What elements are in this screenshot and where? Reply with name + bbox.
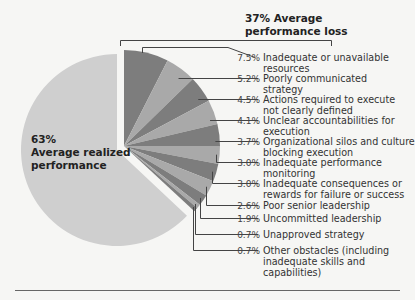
slice-label: Poorly communicated strategy bbox=[263, 73, 388, 95]
slice-pct: 3.0% bbox=[237, 158, 260, 169]
slice-label: Other obstacles (including inadequate sk… bbox=[263, 245, 391, 278]
realized-line2: performance bbox=[31, 159, 131, 172]
slice-pct: 7.5% bbox=[237, 53, 260, 64]
slice-pct: 4.1% bbox=[237, 116, 260, 127]
slice-pct: 5.2% bbox=[237, 74, 260, 85]
loss-title-line2: performance loss bbox=[245, 25, 348, 38]
slice-pct: 1.9% bbox=[237, 214, 260, 225]
slice-label: Unclear accountabilities for execution bbox=[263, 115, 413, 137]
slice-label: Uncommitted leadership bbox=[263, 213, 413, 224]
slice-label: Organizational silos and culture blockin… bbox=[263, 136, 415, 158]
loss-title: 37% Average performance loss bbox=[245, 12, 348, 38]
slice-pct: 0.7% bbox=[237, 230, 260, 241]
slice-pct: 3.0% bbox=[237, 179, 260, 190]
slice-label: Poor senior leadership bbox=[263, 200, 413, 211]
realized-pct: 63% bbox=[31, 133, 131, 146]
slice-pct: 4.5% bbox=[237, 95, 260, 106]
slice-label: Inadequate performance monitoring bbox=[263, 157, 388, 179]
slice-label: Actions required to execute not clearly … bbox=[263, 94, 413, 116]
realized-performance-label: 63% Average realized performance bbox=[31, 133, 131, 172]
slice-pct: 2.6% bbox=[237, 201, 260, 212]
slice-label: Unapproved strategy bbox=[263, 229, 413, 240]
slice-label: Inadequate consequences or rewards for f… bbox=[263, 178, 413, 200]
slice-pct: 3.7% bbox=[237, 137, 260, 148]
realized-line1: Average realized bbox=[31, 146, 131, 159]
slice-label: Inadequate or unavailable resources bbox=[263, 52, 413, 74]
loss-title-line1: 37% Average bbox=[245, 12, 348, 25]
slice-pct: 0.7% bbox=[237, 246, 260, 257]
